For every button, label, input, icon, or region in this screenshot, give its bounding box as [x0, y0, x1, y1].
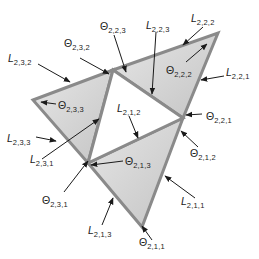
label-symbol: Θ	[206, 110, 214, 122]
label-subscript: 2,1,1	[147, 242, 165, 251]
length-label-2-3-1: L2,3,1	[30, 154, 54, 168]
length-label-2-1-2: L2,1,2	[117, 103, 141, 117]
angle-label-2-2-2: Θ2,2,2	[166, 65, 192, 79]
angle-label-2-3-2: Θ2,3,2	[64, 38, 90, 52]
label-subscript: 2,3,2	[72, 43, 90, 52]
length-label-2-3-3: L2,3,3	[7, 133, 31, 147]
length-label-2-2-2: L2,2,2	[191, 13, 215, 27]
label-symbol: Θ	[100, 20, 108, 32]
label-symbol: Θ	[58, 99, 66, 111]
angle-label-2-3-1: Θ2,3,1	[42, 195, 68, 209]
label-subscript: 2,1,1	[187, 201, 205, 210]
label-subscript: 2,1,2	[123, 108, 141, 117]
diagram-canvas	[0, 0, 259, 259]
length-label-2-1-3: L2,1,3	[88, 225, 112, 239]
label-subscript: 2,1,3	[133, 161, 151, 170]
label-subscript: 2,2,3	[108, 26, 126, 35]
length-label-2-3-2: L2,3,2	[8, 53, 32, 67]
arrow-t212-icon	[181, 131, 198, 147]
label-symbol: Θ	[64, 37, 72, 49]
label-subscript: 2,3,2	[14, 58, 32, 67]
angle-label-2-3-3: Θ2,3,3	[58, 100, 84, 114]
length-label-2-1-1: L2,1,1	[181, 196, 205, 210]
arrow-l211-icon	[165, 176, 195, 198]
angle-label-2-1-1: Θ2,1,1	[139, 237, 165, 251]
arrow-l233-icon	[36, 137, 56, 141]
length-label-2-2-1: L2,2,1	[226, 67, 250, 81]
arrow-l213-icon	[102, 198, 113, 225]
label-subscript: 2,3,3	[66, 105, 84, 114]
label-symbol: Θ	[139, 236, 147, 248]
label-subscript: 2,3,1	[50, 200, 68, 209]
angle-label-2-1-3: Θ2,1,3	[125, 156, 151, 170]
angle-label-2-2-1: Θ2,2,1	[206, 111, 232, 125]
label-symbol: Θ	[166, 64, 174, 76]
length-label-2-2-3: L2,2,3	[146, 20, 170, 34]
label-subscript: 2,1,3	[94, 230, 112, 239]
label-subscript: 2,2,1	[232, 72, 250, 81]
label-subscript: 2,2,2	[197, 18, 215, 27]
arrow-l232-icon	[38, 64, 70, 82]
label-subscript: 2,2,2	[174, 70, 192, 79]
angle-label-2-2-3: Θ2,2,3	[100, 21, 126, 35]
label-subscript: 2,1,2	[198, 153, 216, 162]
angle-label-2-1-2: Θ2,1,2	[190, 148, 216, 162]
arrow-t221-icon	[186, 114, 202, 115]
label-symbol: Θ	[125, 155, 133, 167]
label-subscript: 2,3,3	[13, 138, 31, 147]
label-subscript: 2,2,1	[214, 116, 232, 125]
label-symbol: Θ	[42, 194, 50, 206]
arrow-l221-icon	[201, 76, 224, 80]
label-subscript: 2,3,1	[36, 159, 54, 168]
triangle-diagram: L2,3,2Θ2,3,2Θ2,2,3L2,2,3L2,2,2Θ2,2,2L2,2…	[0, 0, 259, 259]
label-symbol: Θ	[190, 147, 198, 159]
arrow-t231-icon	[64, 161, 88, 192]
label-subscript: 2,2,3	[152, 25, 170, 34]
arrow-t232-icon	[80, 58, 109, 74]
